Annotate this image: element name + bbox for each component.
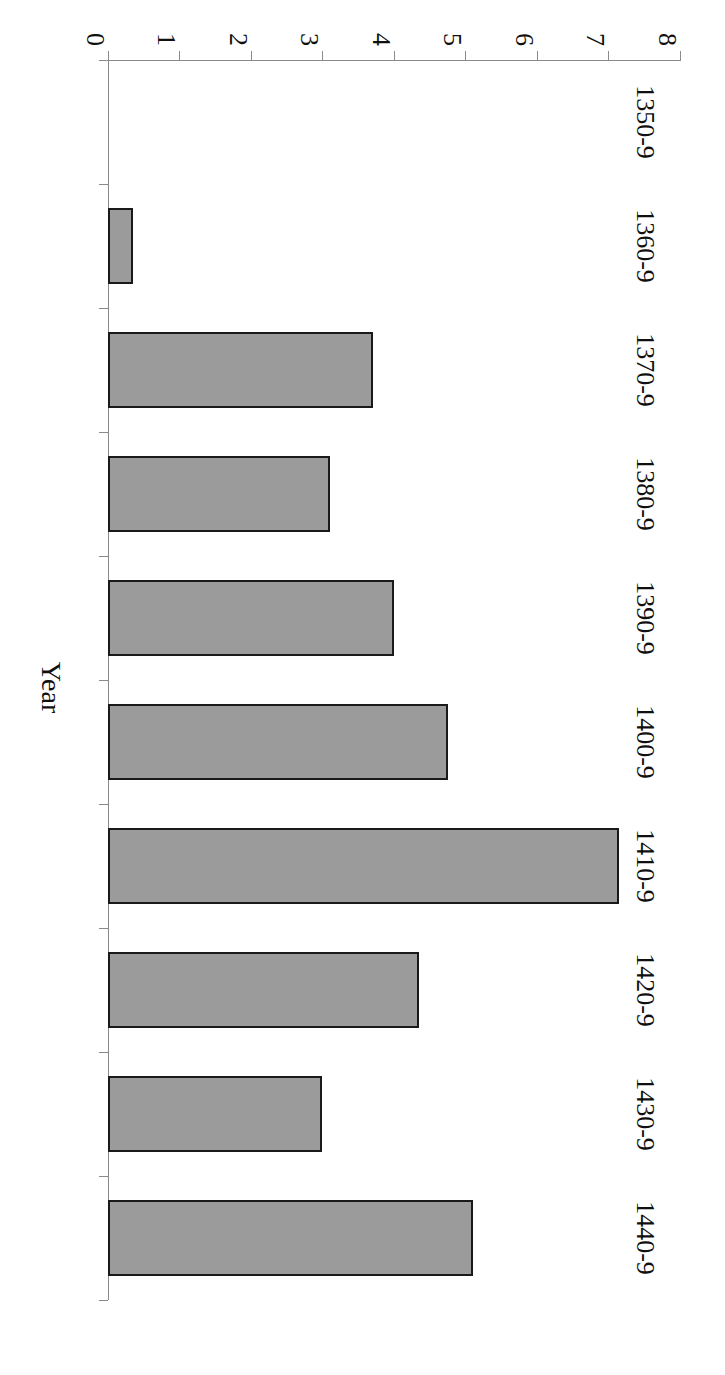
category-tick [99,1176,108,1177]
category-tick [99,1300,108,1301]
category-tick [99,308,108,309]
category-tick-label: 1400-9 [632,705,658,779]
bar [108,208,133,285]
chart-plot-area: 1350-91360-91370-91380-91390-91400-91410… [0,0,725,1375]
value-tick [108,51,109,60]
category-tick [99,680,108,681]
value-tick [680,51,681,60]
category-tick [99,60,108,61]
bar [108,828,619,905]
category-tick [99,184,108,185]
bar [108,456,330,533]
x-axis-title: Year [37,662,65,714]
value-tick [180,51,181,60]
category-tick [99,556,108,557]
value-tick [251,51,252,60]
category-tick-label: 1380-9 [632,457,658,531]
value-tick [609,51,610,60]
value-tick [323,51,324,60]
category-tick [99,928,108,929]
category-tick-label: 1350-9 [632,85,658,159]
bar [108,952,419,1029]
category-tick [99,432,108,433]
value-tick [466,51,467,60]
category-tick-label: 1390-9 [632,581,658,655]
category-tick-label: 1360-9 [632,209,658,283]
bar [108,580,394,657]
category-tick-label: 1420-9 [632,953,658,1027]
category-tick [99,804,108,805]
category-tick-label: 1440-9 [632,1201,658,1275]
bar-chart-plot: 1350-91360-91370-91380-91390-91400-91410… [108,60,680,1300]
category-tick-label: 1370-9 [632,333,658,407]
category-tick-label: 1410-9 [632,829,658,903]
chart-figure: 1350-91360-91370-91380-91390-91400-91410… [0,0,725,1375]
category-tick [99,1052,108,1053]
bar [108,1200,473,1277]
value-tick [537,51,538,60]
bar [108,704,448,781]
bar [108,1076,323,1153]
value-tick [394,51,395,60]
bar [108,332,373,409]
value-axis-line [108,60,681,61]
category-tick-label: 1430-9 [632,1077,658,1151]
